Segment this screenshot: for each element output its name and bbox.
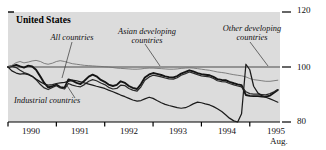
x-axis-label-1995: 1995 <box>267 126 285 136</box>
series-line-3 <box>8 64 278 122</box>
x-axis-label-1994: 1994 <box>218 126 236 136</box>
x-axis-label-1993: 1993 <box>169 126 187 136</box>
leader-line-2 <box>250 42 268 66</box>
annotation-asian-developing: Asian developing countries <box>107 27 187 45</box>
annotation-industrial-countries: Industrial countries <box>14 96 108 105</box>
annotation-asian-developing-line2: countries <box>131 36 162 45</box>
leader-line-0 <box>62 42 72 78</box>
y-axis-label-100: 100 <box>297 62 311 72</box>
annotation-other-developing-line1: Other developing <box>223 24 281 33</box>
annotation-all-countries: All countries <box>36 33 108 42</box>
x-axis-label-1992: 1992 <box>120 126 138 136</box>
annotation-all-countries-text: All countries <box>50 33 93 42</box>
x-axis-sublabel-aug: Aug. <box>270 136 288 146</box>
series-line-0 <box>8 65 278 97</box>
x-axis-label-1991: 1991 <box>71 126 89 136</box>
leader-line-1 <box>145 44 160 66</box>
y-axis-label-120: 120 <box>297 5 311 15</box>
annotation-asian-developing-line1: Asian developing <box>118 27 176 36</box>
chart-title: United States <box>16 14 71 25</box>
y-axis-label-80: 80 <box>297 116 306 126</box>
annotation-other-developing-line2: countries <box>236 33 267 42</box>
x-axis-label-1990: 1990 <box>22 126 40 136</box>
annotation-other-developing: Other developing countries <box>212 24 292 42</box>
chart-figure: United States All countries Asian develo… <box>0 0 326 150</box>
series-line-2 <box>8 60 278 81</box>
annotation-industrial-countries-text: Industrial countries <box>14 96 80 105</box>
